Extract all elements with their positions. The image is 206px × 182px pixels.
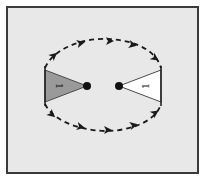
arrow-icon — [150, 53, 161, 64]
arrow-icon — [76, 38, 85, 47]
left-sector-label: 1 — [54, 83, 65, 89]
left-sector — [45, 70, 87, 102]
arrow-icon — [104, 126, 112, 134]
left-puncture — [83, 82, 91, 90]
arrow-icon — [46, 109, 57, 120]
braid-diagram: 1 1 — [0, 0, 206, 182]
lower-path — [45, 104, 161, 131]
lower-arrows — [46, 107, 160, 134]
upper-path — [45, 39, 161, 68]
upper-arrows — [48, 37, 160, 64]
right-sector-label: 1 — [140, 83, 151, 89]
right-puncture — [115, 82, 123, 90]
